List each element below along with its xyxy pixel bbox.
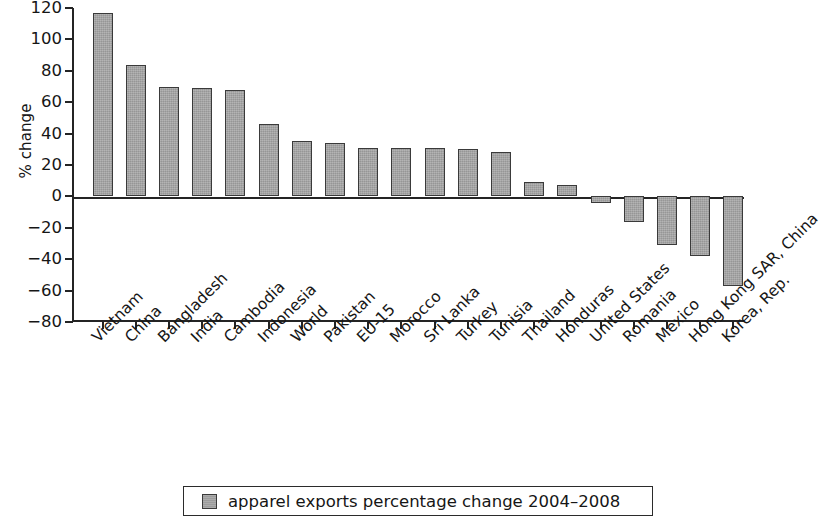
y-axis-tick-label: 40 (41, 126, 62, 142)
y-axis-tick (65, 195, 73, 197)
y-axis-tick-label: 60 (41, 94, 62, 110)
bar (591, 196, 611, 202)
y-axis-tick (65, 70, 73, 72)
y-axis-tick-label: 20 (41, 157, 62, 173)
bar (557, 185, 577, 196)
legend-label: apparel exports percentage change 2004–2… (228, 492, 620, 511)
y-axis-tick (65, 133, 73, 135)
y-axis-tick-label: 0 (52, 188, 63, 204)
chart-legend: apparel exports percentage change 2004–2… (183, 486, 653, 516)
bar (425, 148, 445, 197)
y-axis-tick-label: −20 (27, 220, 62, 236)
bar (259, 124, 279, 196)
y-axis-tick-label: −60 (27, 283, 62, 299)
y-axis-tick (65, 7, 73, 9)
bar (690, 196, 710, 256)
legend-color-swatch (202, 494, 217, 509)
y-axis-tick (65, 38, 73, 40)
y-axis-tick (65, 321, 73, 323)
bar (524, 182, 544, 196)
bar (723, 196, 743, 285)
y-axis-tick (65, 164, 73, 166)
bar (192, 88, 212, 196)
bar (325, 143, 345, 196)
bar (358, 148, 378, 197)
y-axis-tick-label: 100 (31, 31, 63, 47)
bar (225, 90, 245, 197)
bar (159, 87, 179, 197)
bar (624, 196, 644, 221)
bar (491, 152, 511, 196)
bar (126, 65, 146, 197)
y-axis-tick-label: −80 (27, 314, 62, 330)
y-axis-tick (65, 227, 73, 229)
bar (458, 149, 478, 196)
y-axis-tick (65, 101, 73, 103)
bar (93, 13, 113, 197)
y-axis-tick-label: 80 (41, 63, 62, 79)
y-axis-tick-labels: 120100806040200−20−40−60−80 (0, 0, 72, 528)
bar (391, 148, 411, 197)
y-axis-tick-label: 120 (31, 0, 63, 16)
bar (292, 141, 312, 196)
y-axis-tick (65, 258, 73, 260)
y-axis-tick (65, 290, 73, 292)
y-axis-tick-label: −40 (27, 251, 62, 267)
bar (657, 196, 677, 245)
